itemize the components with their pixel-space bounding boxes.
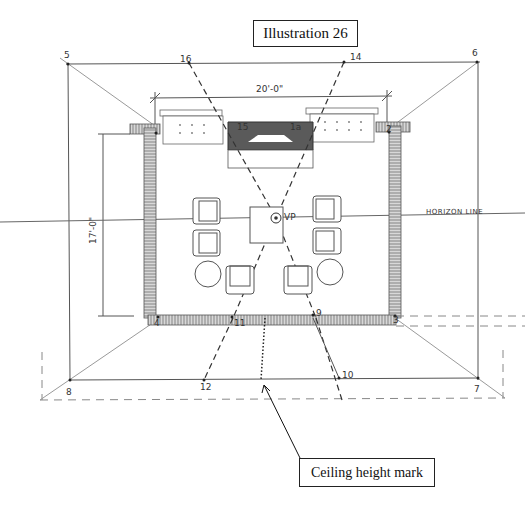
right-window (306, 108, 378, 142)
coffee-table (250, 207, 283, 243)
point-label-5: 5 (64, 50, 70, 60)
perspective-sketch: VP 5 6 16 14 15 1a 2 4 3 11 9 12 10 8 7 … (0, 0, 525, 512)
point-label-10: 10 (342, 370, 354, 380)
point-label-9: 9 (316, 308, 322, 318)
chair (313, 228, 341, 254)
side-table (195, 261, 221, 287)
point-label-1a: 1a (290, 122, 301, 132)
side-table (317, 259, 343, 285)
chair (226, 266, 254, 294)
chair (313, 196, 341, 222)
illustration-title: Illustration 26 (253, 20, 358, 47)
horizon-line-label: HORIZON LINE (426, 208, 483, 216)
front-wall (148, 315, 525, 326)
chair (193, 230, 220, 256)
depth-dimension (98, 134, 134, 316)
point-label-16: 16 (180, 54, 192, 64)
point-label-4: 4 (154, 318, 160, 328)
point-label-11: 11 (234, 318, 245, 328)
furniture (193, 196, 343, 294)
callout-arrow (262, 385, 300, 458)
point-label-6: 6 (472, 48, 478, 58)
width-dimension-label: 20'-0" (256, 84, 283, 94)
depth-dimension-label: 17'-0" (88, 217, 98, 244)
ceiling-height-callout: Ceiling height mark (299, 458, 435, 487)
svg-text:VP: VP (284, 212, 296, 222)
chair (193, 198, 220, 224)
point-label-14: 14 (350, 52, 362, 62)
point-label-12: 12 (200, 382, 211, 392)
chair (284, 266, 312, 294)
left-window (160, 110, 223, 144)
point-label-2: 2 (386, 124, 392, 134)
point-label-3: 3 (393, 315, 399, 325)
point-label-7: 7 (474, 384, 480, 394)
point-label-15: 15 (237, 122, 248, 132)
point-label-8: 8 (66, 387, 72, 397)
